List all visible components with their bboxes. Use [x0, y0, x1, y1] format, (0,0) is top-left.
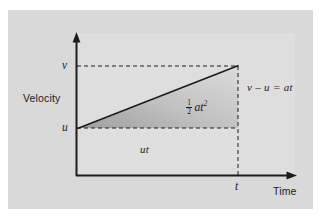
velocity-time-figure: Velocity Time v u t v – u = at 1 2 at2 u… [0, 0, 319, 219]
x-axis-arrowhead [287, 172, 298, 180]
rise-annotation-label: v – u = at [247, 82, 293, 93]
x-tick-label-t: t [235, 181, 238, 193]
x-axis-label: Time [273, 186, 297, 197]
one-half-fraction: 1 2 [186, 99, 192, 116]
graph-canvas [0, 0, 319, 219]
y-axis-arrowhead [73, 32, 81, 43]
y-axis-label: Velocity [23, 93, 60, 104]
y-tick-label-u: u [62, 122, 68, 134]
y-tick-label-v: v [62, 60, 67, 72]
fraction-numerator: 1 [186, 99, 192, 107]
at-squared-expression: at2 [195, 102, 208, 114]
fraction-denominator: 2 [186, 108, 192, 116]
rectangle-area-label: ut [140, 144, 149, 155]
at-exponent: 2 [203, 99, 207, 108]
triangle-area-label: 1 2 at2 [186, 99, 207, 116]
